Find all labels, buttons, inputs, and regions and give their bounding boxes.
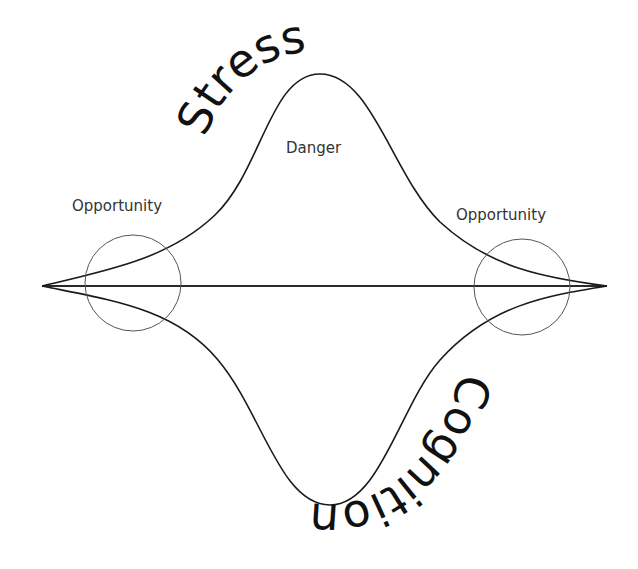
- cognition-label: Cognition: [308, 369, 502, 548]
- left-opportunity-circle: [85, 235, 181, 331]
- right-opportunity-label: Opportunity: [456, 206, 546, 224]
- stress-curve: [42, 74, 607, 286]
- left-opportunity-label: Opportunity: [72, 197, 162, 215]
- stress-cognition-diagram: Stress Cognition Danger Opportunity Oppo…: [0, 0, 638, 569]
- danger-label: Danger: [286, 139, 342, 157]
- stress-label: Stress: [165, 9, 309, 143]
- cognition-curve: [42, 286, 607, 505]
